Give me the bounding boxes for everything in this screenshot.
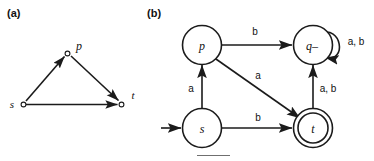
edge-a-p-to-t [71, 56, 119, 101]
edge-label-q-self-loop: a, b [348, 36, 365, 47]
node-a-t [119, 102, 124, 107]
caption-rule-fragment [197, 155, 230, 156]
panel-a-graph: s p t [10, 39, 136, 110]
figure-canvas: s p t a b b a a, b a, b [0, 0, 374, 161]
edge-label-t-to-q: a, b [320, 83, 337, 94]
node-a-s [21, 102, 26, 107]
state-label-p: p [198, 39, 205, 53]
state-label-s: s [200, 122, 205, 136]
node-a-p-label: p [75, 39, 82, 53]
edge-label-p-to-q: b [252, 26, 258, 37]
edge-label-s-to-t: b [255, 112, 261, 123]
edge-a-s-to-p [26, 57, 65, 102]
figure-root: (a) (b) s p t [0, 0, 374, 161]
node-a-t-label: t [131, 89, 135, 101]
node-a-s-label: s [10, 98, 14, 110]
edge-label-s-to-p: a [188, 83, 194, 94]
panel-b-automaton: a b b a a, b a, b p q– s [161, 26, 365, 148]
node-a-p [65, 51, 70, 56]
edge-b-p-to-t [215, 58, 301, 118]
edge-label-p-to-t: a [255, 70, 261, 81]
state-label-q: q– [306, 39, 319, 53]
